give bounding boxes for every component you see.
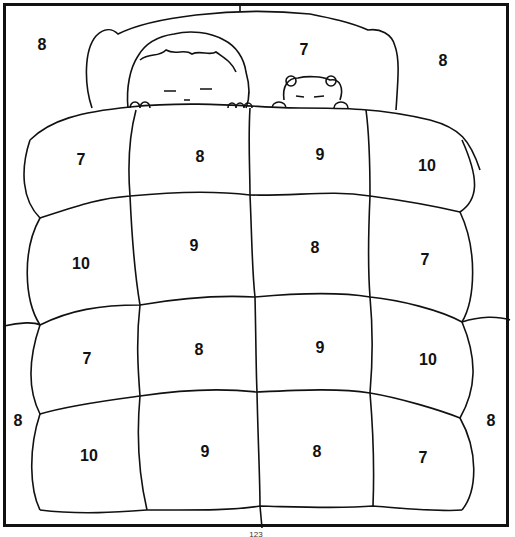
region-number: 10 (418, 158, 436, 174)
region-number: 9 (316, 147, 325, 163)
region-number: 9 (190, 238, 199, 254)
region-number: 7 (300, 42, 309, 58)
region-number: 8 (38, 37, 47, 53)
region-number: 8 (439, 53, 448, 69)
region-number: 8 (487, 413, 496, 429)
region-number: 10 (419, 352, 437, 368)
region-number: 8 (313, 444, 322, 460)
child-head (127, 32, 249, 108)
region-number: 7 (83, 351, 92, 367)
region-number: 9 (201, 444, 210, 460)
page-number: 123 (249, 530, 262, 537)
region-number: 7 (419, 450, 428, 466)
region-number: 8 (14, 413, 23, 429)
teddy-bear-head (284, 77, 342, 100)
region-number: 8 (311, 240, 320, 256)
region-number: 10 (80, 448, 98, 464)
region-number: 7 (421, 252, 430, 268)
region-number: 9 (316, 340, 325, 356)
region-number: 8 (196, 149, 205, 165)
region-number: 7 (77, 152, 86, 168)
region-number: 10 (72, 256, 90, 272)
region-number: 8 (195, 342, 204, 358)
